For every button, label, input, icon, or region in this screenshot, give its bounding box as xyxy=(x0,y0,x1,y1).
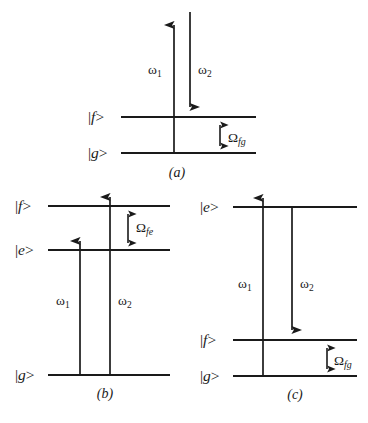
panel-a-gap-label: Ωfg xyxy=(228,130,246,147)
figure-root: |f> |g> ω1 ω2 Ωfg (a) xyxy=(0,0,368,423)
panel-c-gap-symbol: Ω xyxy=(334,353,344,368)
panel-a-omega2-label: ω2 xyxy=(198,62,212,79)
figure-caption-clipped xyxy=(0,414,368,423)
panel-a-level-g-label: |g> xyxy=(88,144,108,161)
panel-b-level-e-label: |e> xyxy=(15,241,34,258)
panel-c-level-e-label: |e> xyxy=(200,198,219,215)
panel-b-g-ket: > xyxy=(26,366,35,383)
panel-a-f-ket: > xyxy=(95,108,104,125)
panel-b-level-g-label: |g> xyxy=(15,366,35,383)
panel-c-gap-label: Ωfg xyxy=(334,353,352,370)
panel-b-omega1-symbol: ω xyxy=(56,293,65,308)
panel-b-omega2-symbol: ω xyxy=(118,293,127,308)
panel-c-level-f-label: |f> xyxy=(200,331,216,348)
panel-a-omega2-symbol: ω xyxy=(198,62,207,77)
panel-b-gap-symbol: Ω xyxy=(136,220,146,235)
panel-c-omega1-sub: 1 xyxy=(247,283,252,293)
panel-b-gap-label: Ωfe xyxy=(136,220,154,237)
panel-c-e-ket: > xyxy=(210,198,219,215)
panel-c-f-ket: > xyxy=(207,331,216,348)
panel-b-omega1-label: ω1 xyxy=(56,293,70,310)
panel-a-caption: (a) xyxy=(169,165,186,181)
panel-b: |f> |e> |g> ω1 ω2 Ωfe (b) xyxy=(15,197,170,402)
panel-c-omega1-symbol: ω xyxy=(238,276,247,291)
panel-c-omega2-symbol: ω xyxy=(300,276,309,291)
panel-b-gap-sub: fe xyxy=(146,226,154,237)
panel-a: |f> |g> ω1 ω2 Ωfg (a) xyxy=(88,12,256,181)
panel-b-caption: (b) xyxy=(97,386,114,402)
energy-level-figure: |f> |g> ω1 ω2 Ωfg (a) xyxy=(0,0,368,423)
panel-a-omega1-sub: 1 xyxy=(157,69,162,79)
panel-a-omega1-symbol: ω xyxy=(148,62,157,77)
panel-a-omega2-sub: 2 xyxy=(207,69,212,79)
panel-c-omega2-label: ω2 xyxy=(300,276,314,293)
panel-a-gap-sub: fg xyxy=(238,136,246,147)
panel-c: |e> |f> |g> ω1 ω2 Ωfg (c) xyxy=(200,198,357,403)
panel-c-g-ket: > xyxy=(211,367,220,384)
panel-c-omega1-label: ω1 xyxy=(238,276,252,293)
panel-a-level-f-label: |f> xyxy=(88,108,104,125)
panel-b-f-ket: > xyxy=(22,197,31,214)
panel-c-omega2-sub: 2 xyxy=(309,283,314,293)
panel-b-omega2-label: ω2 xyxy=(118,293,132,310)
panel-c-level-g-label: |g> xyxy=(200,367,220,384)
panel-a-g-ket: > xyxy=(99,144,108,161)
panel-b-omega1-sub: 1 xyxy=(65,300,70,310)
panel-b-level-f-label: |f> xyxy=(15,197,31,214)
panel-c-caption: (c) xyxy=(287,387,303,403)
panel-a-omega1-label: ω1 xyxy=(148,62,162,79)
panel-c-gap-sub: fg xyxy=(344,359,352,370)
panel-a-gap-symbol: Ω xyxy=(228,130,238,145)
panel-b-e-ket: > xyxy=(25,241,34,258)
panel-b-omega2-sub: 2 xyxy=(127,300,132,310)
